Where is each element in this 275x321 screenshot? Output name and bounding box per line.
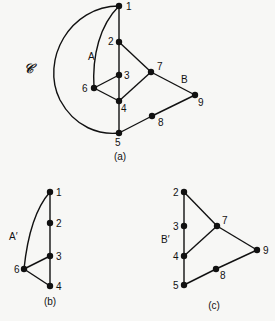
node-label: 6 <box>14 264 20 275</box>
edge-6-3 <box>24 256 50 269</box>
curve-label: 𝒞 <box>24 61 37 76</box>
node-label: 4 <box>173 251 179 262</box>
node-2 <box>181 189 187 195</box>
node-9 <box>254 247 260 253</box>
panel-a: 𝒞 123456789AB (a) <box>24 1 204 162</box>
curve-c-arc <box>54 6 119 133</box>
edge-8-5 <box>184 269 216 285</box>
edge-7-4 <box>184 226 217 256</box>
region-label: A′ <box>9 231 18 242</box>
panel-c: 2345789B′ (c) <box>161 187 269 311</box>
edge-7-9 <box>217 226 257 250</box>
node-label: 1 <box>56 187 62 198</box>
region-label: B′ <box>161 234 170 245</box>
edge-8-5 <box>119 116 152 133</box>
node-6 <box>91 85 97 91</box>
edge-2-7 <box>119 42 151 72</box>
node-label: 3 <box>56 251 62 262</box>
node-label: 8 <box>220 270 226 281</box>
node-label: 3 <box>124 70 130 81</box>
arc-1-6 <box>94 6 119 88</box>
node-label: 6 <box>82 83 88 94</box>
edge-6-4 <box>24 269 50 286</box>
edge-9-8 <box>216 250 257 269</box>
node-3 <box>47 253 53 259</box>
node-5 <box>181 282 187 288</box>
panel-b: 12346A′ (b) <box>9 187 62 307</box>
node-1 <box>116 3 122 9</box>
node-2 <box>47 220 53 226</box>
node-7 <box>148 69 154 75</box>
node-1 <box>47 189 53 195</box>
node-2 <box>116 39 122 45</box>
edge-2-7 <box>184 192 217 226</box>
caption-b: (b) <box>44 296 56 307</box>
node-label: 2 <box>173 187 179 198</box>
node-5 <box>116 130 122 136</box>
caption-a: (a) <box>114 151 126 162</box>
node-label: 2 <box>108 36 114 47</box>
node-6 <box>21 266 27 272</box>
graph-figure: 𝒞 123456789AB (a) 12346A′ (b) 2345789B′ … <box>0 0 275 321</box>
edge-9-8 <box>152 95 195 116</box>
node-label: 9 <box>198 97 204 108</box>
node-label: 7 <box>157 61 163 72</box>
node-3 <box>181 223 187 229</box>
node-label: 4 <box>56 281 62 292</box>
node-3 <box>116 72 122 78</box>
node-label: 5 <box>115 137 121 148</box>
node-4 <box>181 253 187 259</box>
region-label: B <box>181 74 188 85</box>
node-label: 3 <box>173 221 179 232</box>
node-8 <box>213 266 219 272</box>
node-label: 7 <box>222 215 228 226</box>
node-label: 4 <box>121 103 127 114</box>
node-7 <box>214 223 220 229</box>
node-label: 9 <box>263 245 269 256</box>
caption-c: (c) <box>208 300 220 311</box>
node-8 <box>149 113 155 119</box>
region-label: A <box>88 51 95 62</box>
node-label: 8 <box>158 117 164 128</box>
edge-6-4 <box>94 88 119 101</box>
edge-6-3 <box>94 75 119 88</box>
node-label: 2 <box>56 218 62 229</box>
node-label: 1 <box>126 1 132 12</box>
edge-7-9 <box>151 72 195 95</box>
node-4 <box>47 283 53 289</box>
node-label: 5 <box>173 280 179 291</box>
